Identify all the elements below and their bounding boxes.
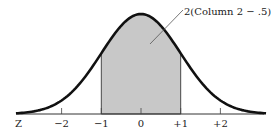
shaded-area [101,14,180,114]
x-tick-labels: −2−10+1+2 [54,118,228,129]
normal-curve-chart: 2(Column 2 − .5) Z −2−10+1+2 [0,0,272,134]
x-tick-label: +1 [173,118,188,129]
x-tick-label: 0 [138,118,144,129]
x-tick-label: −2 [54,118,69,129]
annotation-label: 2(Column 2 − .5) [184,6,271,17]
x-tick-label: +2 [213,118,228,129]
x-ticks [62,108,221,114]
axis-label-z: Z [15,118,22,129]
x-tick-label: −1 [94,118,109,129]
